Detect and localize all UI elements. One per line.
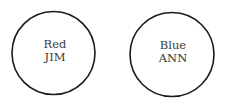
node-name: ANN	[158, 51, 187, 65]
node-color-label: Blue	[160, 38, 187, 52]
node-name: JIM	[44, 50, 66, 64]
node-color-label: Red	[44, 37, 67, 51]
node-ann: Blue ANN	[130, 13, 214, 97]
node-jim: Red JIM	[12, 12, 95, 95]
diagram-canvas: Red JIM Blue ANN	[0, 0, 225, 103]
